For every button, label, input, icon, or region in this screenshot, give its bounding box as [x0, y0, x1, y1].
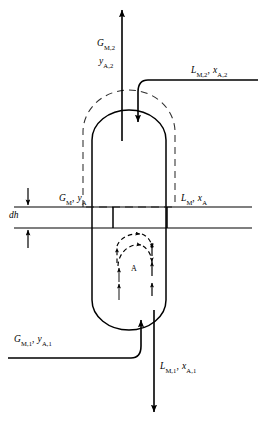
gas-inlet-flow-symbol: G: [14, 334, 21, 344]
liquid-outlet-flow-subscript: M,1: [165, 367, 176, 374]
element-liquid-composition-subscript: A: [202, 199, 207, 206]
liquid-inlet-flow-subscript: M,2: [196, 71, 207, 78]
gas-outlet-composition-subscript: A,2: [103, 62, 113, 69]
liquid-outlet-label: LM,1, xA,1: [160, 362, 196, 372]
gas-inlet-separator: ,: [32, 334, 35, 344]
liquid-inlet-stream-line: [138, 80, 258, 122]
element-height-symbol: dh: [9, 210, 19, 220]
gas-outlet-flow-subscript: M,2: [104, 44, 115, 51]
gas-outlet-flow-label: GM,2: [97, 39, 115, 49]
element-liquid-side-label: LM, xA: [181, 194, 207, 204]
differential-element-boundaries: [14, 207, 252, 228]
liquid-inlet-label: LM,2, xA,2: [191, 66, 227, 76]
element-liquid-flow-subscript: M: [186, 199, 192, 206]
gas-outlet-flow-symbol: G: [97, 38, 104, 48]
element-height-label: dh: [9, 211, 19, 221]
control-volume-dashed-envelope: [83, 90, 175, 207]
element-gas-composition-subscript: A: [82, 199, 87, 206]
liquid-outlet-composition-subscript: A,1: [186, 367, 196, 374]
diagram-canvas: [0, 0, 258, 427]
element-liquid-separator: ,: [192, 193, 195, 203]
gas-outlet-composition-label: yA,2: [99, 57, 113, 67]
element-gas-flow-symbol: G: [59, 193, 66, 203]
element-gas-side-label: GM, yA: [59, 194, 87, 204]
column-vessel-outline: [92, 110, 166, 330]
transfer-species-label: A: [131, 264, 137, 273]
gas-inlet-flow-subscript: M,1: [21, 340, 32, 347]
element-gas-separator: ,: [72, 193, 75, 203]
liquid-inlet-composition-subscript: A,2: [217, 71, 227, 78]
absorption-column-diagram: GM,2 yA,2 LM,2, xA,2 GM, yA LM, xA dh A …: [0, 0, 258, 427]
element-gas-flow-subscript: M: [66, 199, 72, 206]
gas-inlet-label: GM,1, yA,1: [14, 335, 52, 345]
gas-inlet-composition-subscript: A,1: [42, 340, 52, 347]
